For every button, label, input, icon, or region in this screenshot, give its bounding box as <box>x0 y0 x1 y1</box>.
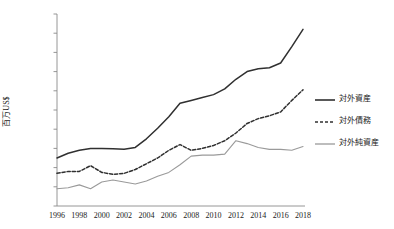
legend-item-net-foreign-assets: 対外純資産 <box>315 130 394 152</box>
legend-label-foreign-liabilities: 対外債務 <box>339 114 371 125</box>
legend-label-foreign-assets: 対外資産 <box>339 92 371 103</box>
chart-figure: 百万US$ 1000000090000008000000700000060000… <box>0 0 394 229</box>
legend-item-foreign-liabilities: 対外債務 <box>315 108 394 130</box>
legend-item-foreign-assets: 対外資産 <box>315 86 394 108</box>
legend-label-net-foreign-assets: 対外純資産 <box>339 136 379 147</box>
series-line-0 <box>57 29 303 158</box>
chart-legend: 対外資産 対外債務 対外純資産 <box>315 86 394 152</box>
